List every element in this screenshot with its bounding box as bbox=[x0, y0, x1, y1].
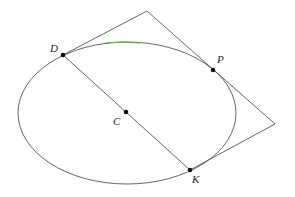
label-c: C bbox=[113, 115, 121, 127]
accent-arc bbox=[105, 42, 140, 43]
point-d bbox=[61, 53, 66, 58]
point-c bbox=[124, 110, 129, 115]
point-p bbox=[211, 68, 216, 73]
point-k bbox=[188, 168, 193, 173]
tangent-lines bbox=[63, 11, 275, 170]
geometry-diagram: D P C K bbox=[0, 0, 295, 197]
label-d: D bbox=[49, 42, 58, 54]
label-p: P bbox=[216, 53, 224, 65]
label-k: K bbox=[191, 173, 200, 185]
